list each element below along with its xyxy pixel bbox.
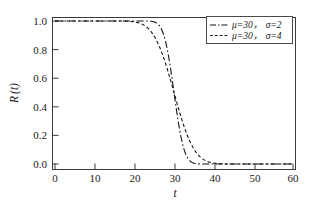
reliability-chart-figure: 0 10 20 30 40 50 60 0.0 0.2 0.4 0.6 0.8 … bbox=[0, 0, 316, 206]
legend-sigma-sigma-2: σ=2 bbox=[266, 20, 282, 30]
y-tick-label-4: 0.8 bbox=[33, 44, 47, 56]
x-axis-title: t bbox=[173, 187, 177, 199]
legend: μ=30，σ=2 μ=30，σ=4 bbox=[207, 17, 293, 44]
chart-canvas: 0 10 20 30 40 50 60 0.0 0.2 0.4 0.6 0.8 … bbox=[0, 0, 316, 206]
legend-mu-sigma-4: μ=30， bbox=[231, 31, 263, 41]
legend-sigma-sigma-4: σ=4 bbox=[266, 31, 282, 41]
x-tick-label-6: 60 bbox=[288, 172, 300, 184]
y-tick-marks bbox=[53, 21, 59, 164]
x-tick-label-5: 50 bbox=[250, 172, 262, 184]
y-tick-label-1: 0.2 bbox=[33, 129, 47, 141]
x-tick-label-3: 30 bbox=[170, 172, 182, 184]
y-tick-label-2: 0.4 bbox=[33, 101, 47, 113]
x-tick-label-2: 20 bbox=[130, 172, 142, 184]
legend-mu-sigma-2: μ=30， bbox=[231, 20, 263, 30]
y-axis-title-paren-close: ) bbox=[8, 83, 21, 88]
x-tick-label-4: 40 bbox=[210, 172, 222, 184]
legend-label-sigma-4: μ=30，σ=4 bbox=[231, 31, 282, 41]
y-tick-label-0: 0.0 bbox=[33, 158, 47, 170]
y-tick-label-5: 1.0 bbox=[33, 15, 47, 27]
x-tick-label-1: 10 bbox=[90, 172, 102, 184]
legend-label-sigma-2: μ=30，σ=2 bbox=[231, 20, 282, 30]
svg-text:R(t): R(t) bbox=[8, 83, 21, 104]
x-tick-label-0: 0 bbox=[52, 172, 58, 184]
y-axis-title-main: R bbox=[8, 96, 20, 104]
y-axis-title: R(t) bbox=[8, 83, 21, 104]
y-tick-label-3: 0.6 bbox=[33, 72, 47, 84]
